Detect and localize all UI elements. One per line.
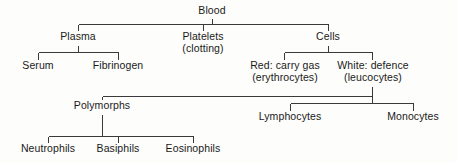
node-eosinophils-label: Eosinophils <box>166 142 221 154</box>
node-red-cells-sublabel: (erythrocytes) <box>250 72 320 84</box>
node-platelets-sublabel: (clotting) <box>182 43 223 55</box>
node-blood-label: Blood <box>198 4 225 16</box>
node-red-cells-label: Red: carry gas <box>250 59 320 71</box>
node-serum: Serum <box>22 60 53 72</box>
node-plasma: Plasma <box>60 31 96 43</box>
node-monocytes: Monocytes <box>387 111 439 123</box>
node-neutrophils-label: Neutrophils <box>21 142 75 154</box>
node-cells-label: Cells <box>316 30 340 42</box>
node-platelets: Platelets (clotting) <box>182 31 223 54</box>
node-eosinophils: Eosinophils <box>166 143 221 155</box>
node-basiphils: Basiphils <box>97 143 140 155</box>
node-lymphocytes-label: Lymphocytes <box>259 110 322 122</box>
node-lymphocytes: Lymphocytes <box>259 111 322 123</box>
node-basiphils-label: Basiphils <box>97 142 140 154</box>
node-platelets-label: Platelets <box>182 30 223 42</box>
node-serum-label: Serum <box>22 59 53 71</box>
node-cells: Cells <box>316 31 340 43</box>
node-blood: Blood <box>198 5 225 17</box>
node-plasma-label: Plasma <box>60 30 96 42</box>
node-red-cells: Red: carry gas (erythrocytes) <box>250 60 320 83</box>
node-monocytes-label: Monocytes <box>387 110 439 122</box>
node-neutrophils: Neutrophils <box>21 143 75 155</box>
node-fibrinogen: Fibrinogen <box>93 60 144 72</box>
node-fibrinogen-label: Fibrinogen <box>93 59 144 71</box>
node-polymorphs-label: Polymorphs <box>74 99 130 111</box>
node-polymorphs: Polymorphs <box>74 100 130 112</box>
blood-classification-diagram: Blood Plasma Platelets (clotting) Cells … <box>0 0 457 163</box>
node-white-cells: White: defence (leucocytes) <box>337 60 408 83</box>
node-white-cells-sublabel: (leucocytes) <box>337 72 408 84</box>
node-white-cells-label: White: defence <box>337 59 408 71</box>
